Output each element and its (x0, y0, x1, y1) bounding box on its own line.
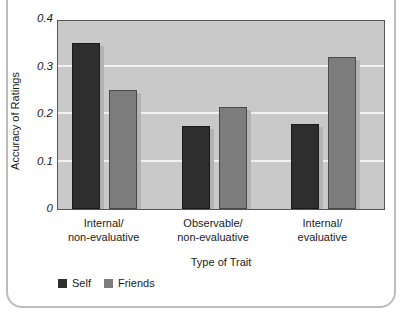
y-tick-label: 0.2 (37, 107, 53, 119)
y-tick-label: 0.3 (37, 60, 53, 72)
x-category-line: Internal/ (44, 216, 164, 230)
bar-self-0 (72, 43, 100, 209)
legend-swatch-icon (104, 279, 113, 288)
bar-friends-2 (328, 57, 356, 209)
bar-self-1 (182, 126, 210, 209)
legend-label: Friends (118, 277, 155, 289)
y-tick-label: 0 (47, 202, 53, 214)
bar-friends-0 (109, 90, 137, 209)
y-axis-title: Accuracy of Ratings (9, 46, 21, 196)
x-category-label: Internal/non-evaluative (44, 216, 164, 244)
x-category-line: non-evaluative (44, 230, 164, 244)
x-category-line: Observable/ (153, 216, 273, 230)
x-axis-title: Type of Trait (57, 256, 385, 268)
legend-swatch-icon (58, 279, 67, 288)
chart-legend: SelfFriends (58, 277, 155, 289)
legend-label: Self (72, 277, 91, 289)
x-category-line: evaluative (262, 230, 382, 244)
plot-area (57, 20, 385, 210)
x-category-line: Internal/ (262, 216, 382, 230)
x-category-line: non-evaluative (153, 230, 273, 244)
figure-card: 00.10.20.30.4 Accuracy of Ratings Intern… (0, 0, 405, 319)
x-category-label: Internal/evaluative (262, 216, 382, 244)
bar-self-2 (291, 124, 319, 209)
bar-friends-1 (219, 107, 247, 209)
y-tick-label: 0.1 (37, 155, 53, 167)
plot-wrapper (57, 20, 385, 210)
legend-item-friends[interactable]: Friends (104, 277, 155, 289)
y-tick-label: 0.4 (37, 12, 53, 24)
bars-layer (58, 21, 384, 209)
legend-item-self[interactable]: Self (58, 277, 91, 289)
x-category-label: Observable/non-evaluative (153, 216, 273, 244)
y-axis-ticks: 00.10.20.30.4 (0, 0, 53, 319)
